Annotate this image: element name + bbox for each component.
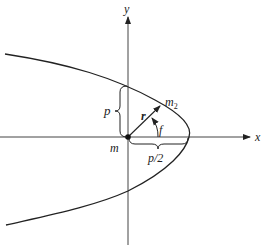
m2-label: m2 [165,96,178,111]
brace-p [115,86,127,137]
p-half-label: p/2 [148,152,163,164]
m2-subscript: 2 [174,102,178,111]
parabola-orbit [5,54,190,225]
diagram-svg [0,0,265,250]
m2-base: m [165,95,174,109]
y-axis-label: y [124,3,129,15]
f-label: f [159,124,162,136]
m-label: m [110,142,119,154]
brace-p-half [129,138,188,149]
p-label: p [104,104,111,117]
x-axis-label: x [255,131,260,143]
diagram-canvas: y x p r f m2 m p/2 [0,0,265,250]
r-label: r [141,110,146,122]
angle-arc [152,118,158,137]
